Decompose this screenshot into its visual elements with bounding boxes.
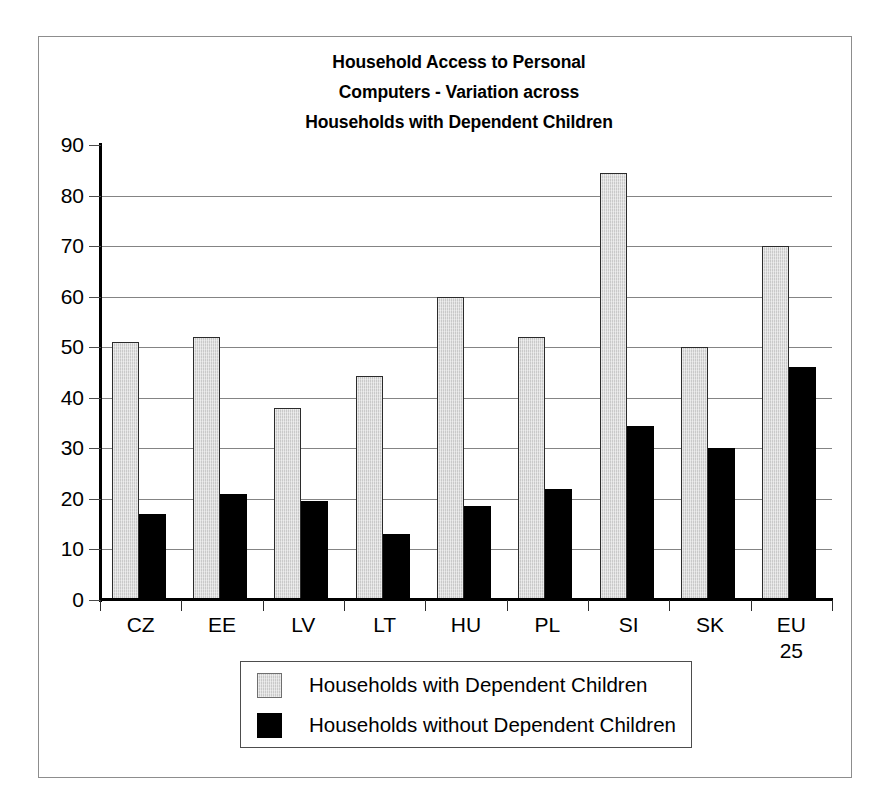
x-axis-category-label-line: HU xyxy=(425,612,506,638)
x-axis-tick-mark xyxy=(751,600,752,611)
x-axis-category-label: SK xyxy=(669,612,750,638)
bar xyxy=(762,246,789,600)
bar xyxy=(112,342,139,600)
bar xyxy=(464,506,491,600)
x-axis-category-label: CZ xyxy=(100,612,181,638)
y-axis-tick-mark xyxy=(89,549,101,550)
y-axis-tick-mark xyxy=(89,448,101,449)
x-axis-line xyxy=(99,598,833,601)
bar xyxy=(139,514,166,600)
bar xyxy=(600,173,627,600)
y-axis-line xyxy=(99,143,102,602)
x-axis-category-label: LT xyxy=(344,612,425,638)
gridline xyxy=(100,297,832,298)
x-axis-category-label-line: SI xyxy=(588,612,669,638)
bar xyxy=(518,337,545,600)
y-axis-tick-mark xyxy=(89,297,101,298)
x-axis-tick-mark xyxy=(181,600,182,611)
chart-title: Household Access to Personal Computers -… xyxy=(159,47,759,137)
chart-title-line-2: Computers - Variation across xyxy=(159,77,759,107)
y-axis-tick-label: 70 xyxy=(40,235,84,256)
bar xyxy=(356,376,383,600)
x-axis-category-label-line: SK xyxy=(669,612,750,638)
y-axis-tick-label: 10 xyxy=(40,538,84,559)
x-axis-category-label-line: CZ xyxy=(100,612,181,638)
x-axis-category-label: HU xyxy=(425,612,506,638)
bar xyxy=(301,501,328,600)
y-axis-tick-label: 60 xyxy=(40,286,84,307)
x-axis-category-label-line: LV xyxy=(263,612,344,638)
y-axis-tick-mark xyxy=(89,196,101,197)
x-axis-category-label-line: EU xyxy=(751,612,832,638)
chart-title-line-1: Household Access to Personal xyxy=(159,47,759,77)
plot-area xyxy=(100,145,832,600)
x-axis-category-label-line: EE xyxy=(181,612,262,638)
legend-label-with-children: Households with Dependent Children xyxy=(309,673,647,697)
x-axis-category-label-line: LT xyxy=(344,612,425,638)
y-axis-tick-mark xyxy=(89,499,101,500)
x-axis-tick-mark xyxy=(263,600,264,611)
y-axis-tick-mark xyxy=(89,145,101,146)
legend-swatch-gray-icon xyxy=(257,673,282,698)
x-axis-category-label: PL xyxy=(507,612,588,638)
bar xyxy=(545,489,572,600)
y-axis-tick-label: 0 xyxy=(40,589,84,610)
y-axis-tick-label: 90 xyxy=(40,134,84,155)
x-axis-category-label-line: 25 xyxy=(751,638,832,664)
bar xyxy=(383,534,410,600)
y-axis-tick-label: 30 xyxy=(40,437,84,458)
y-axis-tick-mark xyxy=(89,347,101,348)
bar xyxy=(627,426,654,600)
x-axis-tick-mark xyxy=(588,600,589,611)
legend-label-without-children: Households without Dependent Children xyxy=(309,713,676,737)
x-axis-tick-mark xyxy=(425,600,426,611)
chart-title-line-3: Households with Dependent Children xyxy=(159,107,759,137)
x-axis-category-label: SI xyxy=(588,612,669,638)
bar xyxy=(437,297,464,600)
x-axis-tick-mark xyxy=(832,600,833,611)
bar xyxy=(274,408,301,600)
y-axis-tick-label: 20 xyxy=(40,488,84,509)
x-axis-category-label: LV xyxy=(263,612,344,638)
bar xyxy=(681,347,708,600)
gridline xyxy=(100,196,832,197)
legend-item-with-children: Households with Dependent Children xyxy=(257,671,647,699)
chart-legend: Households with Dependent Children House… xyxy=(240,661,692,748)
x-axis-tick-mark xyxy=(100,600,101,611)
x-axis-category-label-line: PL xyxy=(507,612,588,638)
gridline xyxy=(100,246,832,247)
x-axis-tick-mark xyxy=(344,600,345,611)
x-axis-tick-mark xyxy=(507,600,508,611)
bar xyxy=(789,367,816,600)
bar xyxy=(193,337,220,600)
y-axis-tick-mark xyxy=(89,398,101,399)
legend-item-without-children: Households without Dependent Children xyxy=(257,711,676,739)
y-axis-tick-label: 80 xyxy=(40,185,84,206)
bar xyxy=(220,494,247,600)
bar xyxy=(708,448,735,600)
x-axis-tick-mark xyxy=(669,600,670,611)
y-axis-tick-label: 40 xyxy=(40,387,84,408)
x-axis-category-label: EU25 xyxy=(751,612,832,664)
y-axis-tick-label: 50 xyxy=(40,336,84,357)
x-axis-category-label: EE xyxy=(181,612,262,638)
y-axis-tick-mark xyxy=(89,246,101,247)
legend-swatch-black-icon xyxy=(257,713,282,738)
